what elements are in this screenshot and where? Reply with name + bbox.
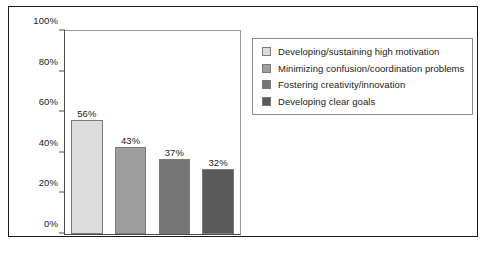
plot-area: 0%20%40%60%80%100% 56%43%37%32% [64, 30, 241, 235]
legend-swatch-icon [262, 64, 271, 73]
y-axis-tick-label: 80% [39, 55, 65, 66]
y-axis-tick-label: 0% [44, 218, 65, 229]
y-axis-tick-label: 100% [33, 15, 65, 26]
y-axis-tick-mark [59, 30, 65, 31]
y-axis-tick-label: 40% [39, 136, 65, 147]
chart-legend: Developing/sustaining high motivationMin… [252, 38, 473, 115]
bar-value-label: 32% [208, 157, 227, 168]
legend-item: Developing/sustaining high motivation [262, 46, 463, 57]
bar-value-label: 37% [165, 147, 184, 158]
chart-figure: 0%20%40%60%80%100% 56%43%37%32% Developi… [0, 0, 489, 255]
y-axis-tick-mark [59, 111, 65, 112]
bar: 56% [71, 120, 103, 234]
figure-frame: 0%20%40%60%80%100% 56%43%37%32% Developi… [8, 6, 478, 237]
legend-swatch-icon [262, 80, 271, 89]
y-axis-tick-label: 60% [39, 96, 65, 107]
legend-item: Minimizing confusion/coordination proble… [262, 63, 463, 74]
y-axis-tick-mark [59, 233, 65, 234]
y-axis-tick-label: 20% [39, 177, 65, 188]
y-axis-tick-mark [59, 70, 65, 71]
legend-swatch-icon [262, 97, 271, 106]
y-axis-tick-mark [59, 151, 65, 152]
bar: 32% [202, 169, 234, 234]
y-axis-tick-mark [59, 192, 65, 193]
legend-item-label: Minimizing confusion/coordination proble… [278, 63, 464, 74]
legend-item: Fostering creativity/innovation [262, 79, 463, 90]
legend-swatch-icon [262, 47, 271, 56]
legend-item: Developing clear goals [262, 96, 463, 107]
legend-item-label: Developing clear goals [278, 96, 375, 107]
legend-item-label: Developing/sustaining high motivation [278, 46, 439, 57]
bar: 43% [115, 147, 147, 234]
bar: 37% [159, 159, 191, 234]
bar-value-label: 43% [121, 135, 140, 146]
legend-item-label: Fostering creativity/innovation [278, 79, 405, 90]
bar-value-label: 56% [77, 108, 96, 119]
